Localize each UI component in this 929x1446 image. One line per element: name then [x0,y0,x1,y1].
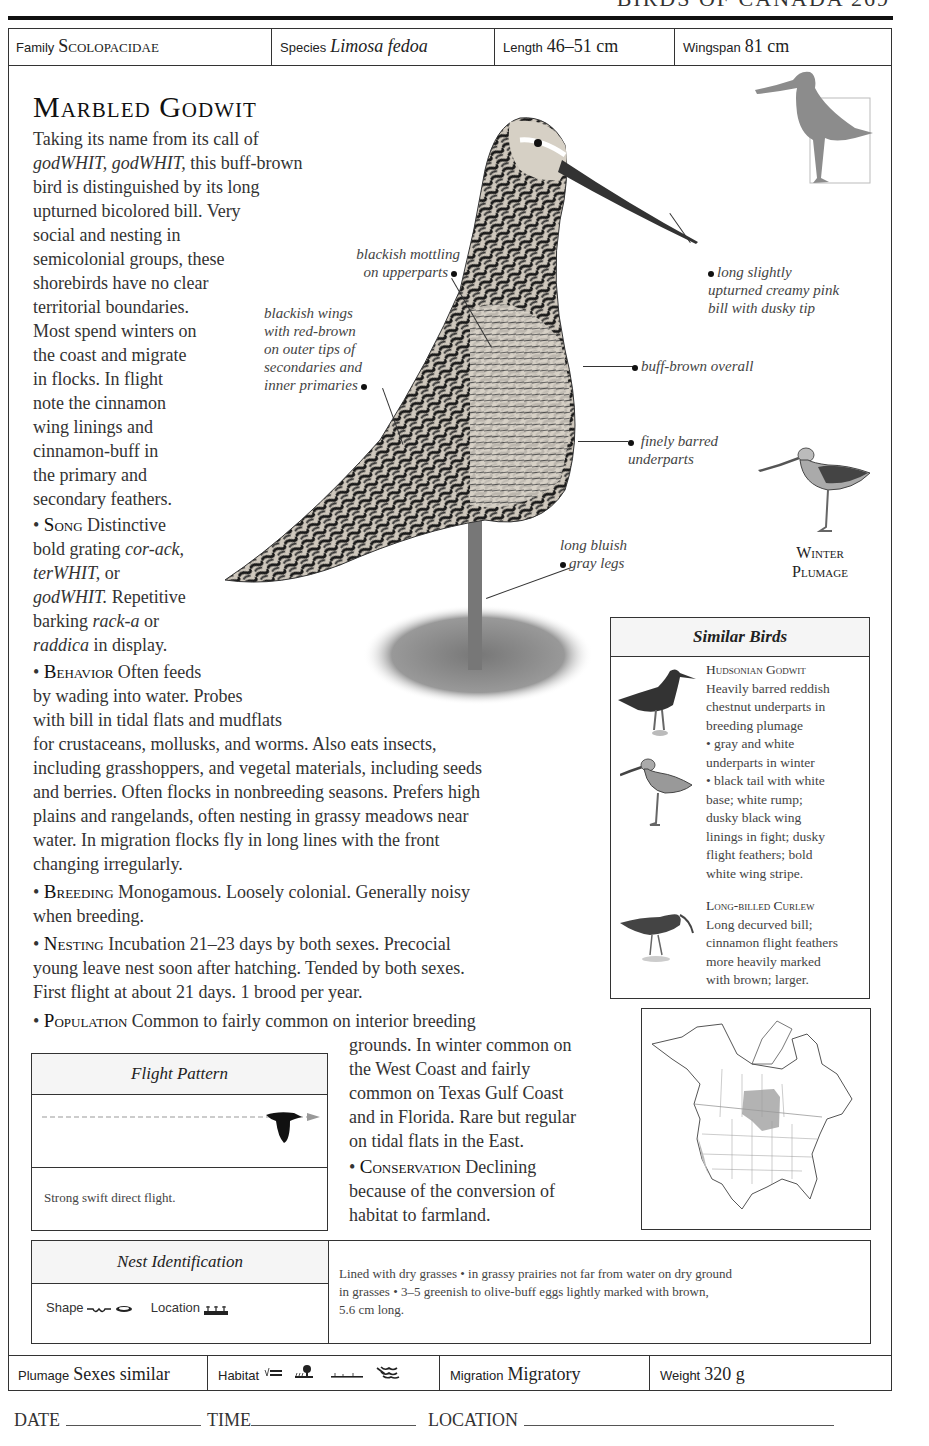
weight-label: Weight [660,1368,700,1383]
leader-line [583,366,635,367]
similar-birds-title: Similar Birds [611,618,869,657]
migration-cell: Migration Migratory [440,1356,650,1391]
annotation-legs: long bluish gray legs [560,536,650,572]
marsh-icon [265,1368,282,1376]
species-cell: Species Limosa fedoa [272,28,495,65]
nest-identification-panel: Nest Identification Shape Location Lined… [31,1240,871,1344]
location-field[interactable] [524,1411,834,1426]
length-value: 46–51 cm [547,36,619,57]
habitat-icons [263,1364,413,1380]
species-value: Limosa fedoa [330,36,428,57]
population-continued: grounds. In winter common on the West Co… [349,1033,639,1227]
conservation-section: • Conservation Declining [349,1155,639,1179]
plumage-value: Sexes similar [73,1364,170,1385]
habitat-label: Habitat [218,1368,259,1383]
flight-pattern-diagram [32,1095,327,1168]
migration-label: Migration [450,1368,503,1383]
flight-pattern-panel: Flight Pattern Strong swift direct fligh… [31,1053,328,1231]
tree-grassland-icon [295,1365,313,1378]
north-america-map-icon [642,1009,869,1228]
wingspan-value: 81 cm [745,36,790,57]
annotation-bill: long slightly upturned creamy pink bill … [708,263,878,317]
plumage-label: Plumage [18,1368,69,1383]
plumage-cell: Plumage Sexes similar [8,1356,208,1391]
species-label: Species [280,40,326,55]
nest-location-ground-icon [204,1303,228,1315]
winter-plumage-illustration [758,445,873,535]
header-row: Family Scolopacidae Species Limosa fedoa… [8,28,892,66]
flight-path-icon [32,1095,326,1167]
size-silhouette-icon [755,68,880,193]
top-rule [8,16,893,20]
family-label: Family [16,40,54,55]
annotation-wings: blackish wings with red-brown on outer t… [264,304,394,394]
length-cell: Length 46–51 cm [495,28,675,65]
footer-row: Plumage Sexes similar Habitat Migration … [8,1355,892,1391]
population-section: • Population Common to fairly common on … [33,1009,633,1033]
leader-line [578,441,628,442]
flight-pattern-title: Flight Pattern [32,1054,327,1095]
nest-shape-location: Shape Location [32,1284,328,1315]
open-plains-icon [331,1373,363,1378]
location-label: LOCATION [428,1410,518,1431]
annotation-mottling: blackish mottling on upperparts [342,245,460,281]
running-head: BIRDS OF CANADA 269 [540,0,890,12]
sighting-log: DATE TIME LOCATION [14,1410,894,1431]
nest-identification-title: Nest Identification [32,1241,328,1284]
similar-bird-hudsonian: Hudsonian Godwit Heavily barred reddish … [706,661,872,883]
time-label: TIME [207,1410,251,1431]
winter-plumage-caption: Winter Plumage [760,543,880,581]
similar-bird-curlew: Long-billed Curlew Long decurved bill; c… [706,897,872,990]
length-label: Length [503,40,543,55]
weight-value: 320 g [704,1364,745,1385]
annotation-underparts: finely barred underparts [628,432,758,468]
nest-shape-icon [87,1303,133,1315]
family-cell: Family Scolopacidae [8,28,272,65]
breeding-range [742,1089,780,1131]
wingspan-cell: Wingspan 81 cm [675,28,892,65]
flight-pattern-description: Strong swift direct flight. [32,1168,327,1206]
long-billed-curlew-illustration [620,905,695,965]
nesting-section: • Nesting Incubation 21–23 days by both … [33,932,633,1004]
family-value: Scolopacidae [58,36,159,57]
migration-value: Migratory [507,1364,580,1385]
date-field[interactable] [66,1411,201,1426]
breeding-section: • Breeding Monogamous. Loosely colonial.… [33,880,633,928]
habitat-cell: Habitat [208,1356,440,1391]
hudsonian-godwit-breeding-illustration [618,665,696,740]
nest-identification-description: Lined with dry grasses • in grassy prair… [329,1241,870,1343]
weight-cell: Weight 320 g [650,1356,892,1391]
shore-waves-icon [377,1367,399,1378]
date-label: DATE [14,1410,60,1431]
range-map [641,1008,871,1230]
hudsonian-godwit-winter-illustration [620,755,695,830]
wingspan-label: Wingspan [683,40,741,55]
annotation-overall: buff-brown overall [632,357,802,375]
time-field[interactable] [251,1411,416,1426]
